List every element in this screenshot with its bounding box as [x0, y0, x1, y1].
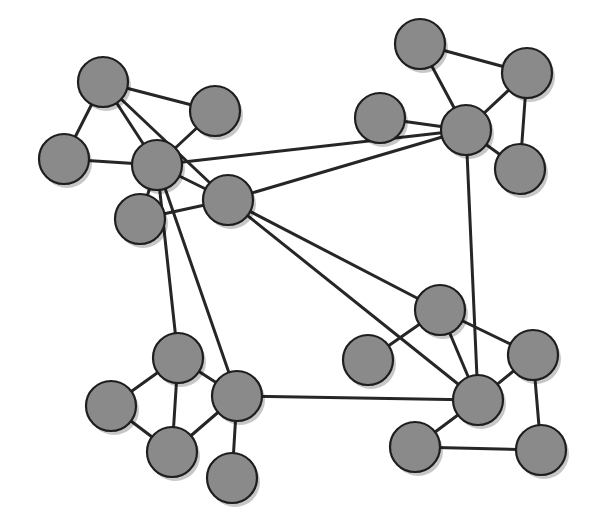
network-graph-canvas [0, 0, 596, 529]
node-circle[interactable] [190, 86, 240, 136]
node-circle[interactable] [415, 285, 465, 335]
node-circle[interactable] [502, 48, 552, 98]
node-circle[interactable] [39, 134, 89, 184]
graph-node[interactable] [516, 425, 566, 475]
graph-node[interactable] [415, 285, 465, 335]
node-circle[interactable] [390, 422, 440, 472]
graph-node[interactable] [495, 144, 545, 194]
graph-edge [466, 130, 478, 400]
node-circle[interactable] [453, 375, 503, 425]
graph-node[interactable] [132, 140, 182, 190]
node-circle[interactable] [355, 93, 405, 143]
graph-node[interactable] [190, 86, 240, 136]
node-circle[interactable] [495, 144, 545, 194]
graph-edge [237, 396, 478, 400]
graph-node[interactable] [147, 427, 197, 477]
graph-node[interactable] [343, 335, 393, 385]
node-circle[interactable] [212, 371, 262, 421]
graph-node[interactable] [390, 422, 440, 472]
graph-node[interactable] [441, 105, 491, 155]
graph-edge [228, 130, 466, 200]
node-circle[interactable] [132, 140, 182, 190]
node-circle[interactable] [78, 57, 128, 107]
graph-node[interactable] [502, 48, 552, 98]
graph-node[interactable] [355, 93, 405, 143]
graph-node[interactable] [203, 175, 253, 225]
node-circle[interactable] [147, 427, 197, 477]
graph-node[interactable] [212, 371, 262, 421]
node-circle[interactable] [441, 105, 491, 155]
graph-node[interactable] [508, 330, 558, 380]
node-circle[interactable] [516, 425, 566, 475]
node-circle[interactable] [343, 335, 393, 385]
node-circle[interactable] [207, 453, 257, 503]
node-circle[interactable] [395, 19, 445, 69]
graph-node[interactable] [39, 134, 89, 184]
graph-edge [228, 200, 440, 310]
node-circle[interactable] [203, 175, 253, 225]
node-circle[interactable] [86, 381, 136, 431]
graph-node[interactable] [78, 57, 128, 107]
graph-node[interactable] [115, 194, 165, 244]
graph-node[interactable] [395, 19, 445, 69]
node-circle[interactable] [508, 330, 558, 380]
node-circle[interactable] [153, 333, 203, 383]
node-circle[interactable] [115, 194, 165, 244]
network-graph-figure [0, 0, 596, 529]
graph-node[interactable] [86, 381, 136, 431]
graph-node[interactable] [207, 453, 257, 503]
graph-node[interactable] [453, 375, 503, 425]
graph-node[interactable] [153, 333, 203, 383]
